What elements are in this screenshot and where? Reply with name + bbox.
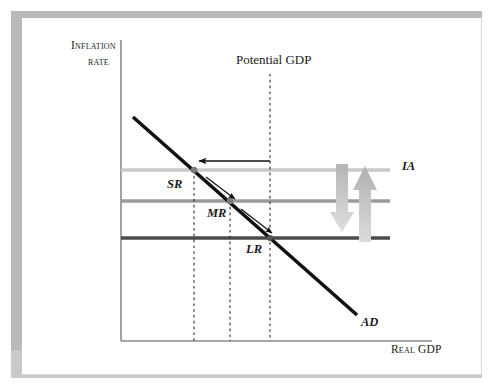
ia-label: IA [402,160,415,173]
output-up-arrow-icon [353,166,377,242]
point-sr [191,167,197,173]
vertical-guides-group [194,74,270,341]
point-lr [267,235,273,241]
potential-gdp-label: Potential GDP [236,53,311,66]
mr-label: MR [207,207,226,220]
lr-label: LR [246,243,262,256]
ad-label: AD [361,316,378,329]
ia-lines-group [121,170,390,238]
point-mr [227,198,233,204]
gray-arrows-group [330,164,377,242]
inflation-down-arrow-icon [330,164,354,232]
annotation-arrows-group [199,161,272,233]
x-axis-label: Real GDP [391,344,442,356]
y-axis-label-line1: Inflation [71,40,116,52]
ad-curve [133,117,357,315]
sr-label: SR [167,178,182,191]
mr-to-lr-arrow [241,209,272,233]
y-axis-label-line2: rate [88,56,109,68]
figure-container: Inflation rate Real GDP Potential GDP SR… [0,0,500,392]
